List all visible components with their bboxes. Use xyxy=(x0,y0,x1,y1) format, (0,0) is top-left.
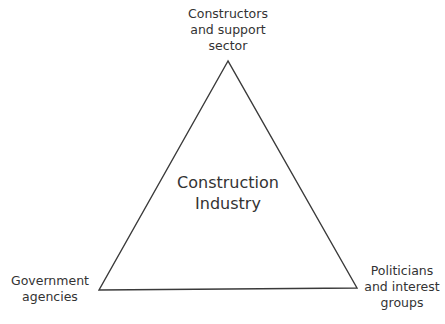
center-label: Construction Industry xyxy=(163,172,293,214)
bottom-right-label-line-2: and interest xyxy=(362,279,442,295)
top-vertex-label: Constructors and support sector xyxy=(168,6,288,54)
bottom-right-label-line-3: groups xyxy=(362,295,442,311)
center-label-line-2: Industry xyxy=(163,193,293,214)
top-label-line-3: sector xyxy=(168,38,288,54)
bottom-left-vertex-label: Government agencies xyxy=(6,273,94,305)
top-label-line-1: Constructors xyxy=(168,6,288,22)
center-label-line-1: Construction xyxy=(163,172,293,193)
triangle-diagram: Constructors and support sector Construc… xyxy=(0,0,445,324)
bottom-left-label-line-1: Government xyxy=(6,273,94,289)
top-label-line-2: and support xyxy=(168,22,288,38)
bottom-right-vertex-label: Politicians and interest groups xyxy=(362,263,442,311)
bottom-left-label-line-2: agencies xyxy=(6,289,94,305)
bottom-right-label-line-1: Politicians xyxy=(362,263,442,279)
